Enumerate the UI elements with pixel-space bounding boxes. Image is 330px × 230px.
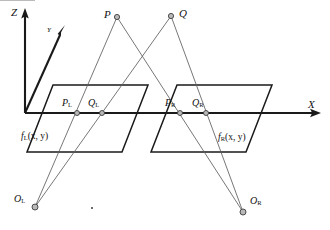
right-plane-function-args: (x, y) (225, 132, 246, 142)
camera-center-ol-label: OL (14, 194, 25, 205)
figure-canvas (0, 0, 330, 230)
point-p-dot (114, 14, 119, 19)
stray-mark (91, 207, 93, 209)
y-axis-label: Y (47, 27, 51, 34)
left-plane-function-args: (x, y) (28, 131, 49, 141)
y-axis-line (25, 35, 60, 113)
point-q-label: Q (179, 8, 187, 19)
projection-ql-label-sub: L (95, 101, 99, 108)
projection-qr-label: QR (192, 98, 204, 109)
z-axis-label: Z (11, 7, 17, 18)
camera-center-or-label-sub: R (257, 199, 261, 206)
projection-qr-dot (204, 111, 209, 116)
projection-pr-label-sub: R (171, 101, 175, 108)
right-image-plane (151, 85, 272, 152)
stereo-projection-diagram: Z Y X P Q PL QL PR QR OL OR fL(x, y) fR(… (0, 0, 330, 230)
camera-center-or-label: OR (250, 196, 262, 207)
projection-pr-label: PR (165, 98, 175, 109)
projection-qr-label-sub: R (199, 101, 203, 108)
y-axis-arrowhead (58, 25, 65, 36)
x-axis-label: X (308, 99, 315, 110)
left-image-plane (27, 85, 148, 152)
camera-center-ol-label-sub: L (21, 197, 25, 204)
projection-pl-label: PL (62, 98, 72, 109)
right-plane-function-label: fR(x, y) (218, 133, 246, 143)
camera-center-ol-dot (32, 204, 38, 210)
camera-center-or-dot (240, 209, 246, 215)
point-p-label: P (104, 9, 111, 20)
projection-pl-label-sub: L (68, 101, 72, 108)
left-plane-function-label: fL(x, y) (21, 132, 48, 142)
projection-pr-dot (178, 111, 183, 116)
projection-pl-dot (75, 111, 80, 116)
projection-ql-label: QL (88, 98, 99, 109)
projection-ql-dot (100, 111, 105, 116)
point-q-dot (168, 13, 173, 18)
